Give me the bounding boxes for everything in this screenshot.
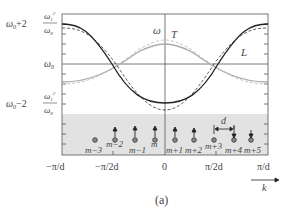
svg-text:ω0: ω0 (44, 105, 53, 116)
y-tick-middle: ω0 (44, 58, 54, 70)
svg-text:ω0−2: ω0−2 (6, 98, 27, 110)
dispersion-figure: ω T L ω0+2 ω12 ω0 ω0 ω0−2 ω12 ω0 (0, 0, 294, 221)
curve-label-T: T (171, 28, 178, 40)
curve-label-L: L (240, 46, 247, 58)
svg-text:ω12: ω12 (44, 11, 56, 22)
svg-text:m+3: m+3 (205, 141, 223, 151)
svg-text:m: m (151, 139, 158, 149)
svg-text:ω0+2: ω0+2 (6, 18, 27, 30)
svg-text:m+4: m+4 (225, 145, 243, 155)
svg-text:ω12: ω12 (44, 91, 56, 102)
svg-text:m−1: m−1 (129, 145, 146, 155)
y-tick-top: ω0+2 ω12 ω0 (6, 11, 57, 36)
svg-text:ω0: ω0 (44, 58, 54, 70)
svg-text:π/d: π/d (257, 161, 270, 172)
x-tick-labels: −π/d −π/2d 0 π/2d π/d (46, 161, 270, 172)
svg-text:m+1: m+1 (166, 145, 183, 155)
k-axis-label: k (262, 182, 267, 193)
y-tick-bottom: ω0−2 ω12 ω0 (6, 91, 57, 116)
svg-text:m−2: m−2 (106, 139, 124, 149)
omega-axis-label: ω (153, 24, 161, 36)
svg-text:0: 0 (162, 161, 167, 172)
svg-text:π/2d: π/2d (205, 161, 223, 172)
svg-text:−π/2d: −π/2d (95, 161, 118, 172)
svg-text:ω0: ω0 (44, 25, 53, 36)
panel-label: (a) (155, 193, 168, 207)
svg-text:−π/d: −π/d (46, 161, 64, 172)
svg-text:m−3: m−3 (85, 145, 103, 155)
svg-text:m+2: m+2 (185, 145, 203, 155)
svg-text:m+5: m+5 (244, 145, 262, 155)
